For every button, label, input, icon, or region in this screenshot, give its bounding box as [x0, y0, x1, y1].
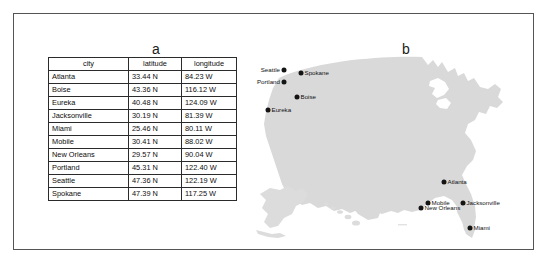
map-label-miami: Miami	[474, 225, 491, 231]
cell-city: Jacksonville	[49, 110, 128, 122]
table-row: Boise43.36 N116.12 W	[49, 84, 236, 96]
contiguous-us-shape	[264, 57, 503, 236]
panel-label-a: a	[152, 42, 160, 56]
city-coordinates-table: city latitude longitude Atlanta33.44 N84…	[48, 57, 237, 201]
map-label-seattle: Seattle	[261, 67, 280, 73]
map-label-new-orleans: New Orleans	[425, 205, 461, 211]
gulf-detail-mark	[398, 224, 407, 225]
cell-longitude: 80.11 W	[182, 123, 236, 135]
column-header-longitude: longitude	[182, 58, 236, 70]
cell-longitude: 122.19 W	[182, 175, 236, 187]
cell-longitude: 124.09 W	[182, 97, 236, 109]
table-row: Atlanta33.44 N84.23 W	[49, 71, 236, 83]
us-map-panel: SeattlePortlandSpokaneBoiseEurekaAtlanta…	[252, 48, 514, 244]
cell-longitude: 88.02 W	[182, 136, 236, 148]
map-dot-spokane	[299, 71, 304, 76]
cell-latitude: 45.31 N	[129, 162, 181, 174]
table-row: Seattle47.36 N122.19 W	[49, 175, 236, 187]
cell-city: Atlanta	[49, 71, 128, 83]
cell-latitude: 25.46 N	[129, 123, 181, 135]
cell-latitude: 30.41 N	[129, 136, 181, 148]
table-body: Atlanta33.44 N84.23 WBoise43.36 N116.12 …	[49, 71, 236, 200]
cell-longitude: 122.40 W	[182, 162, 236, 174]
alaska-shape	[260, 186, 308, 228]
table-row: New Orleans29.57 N90.04 W	[49, 149, 236, 161]
map-label-portland: Portland	[257, 79, 280, 85]
cell-latitude: 29.57 N	[129, 149, 181, 161]
map-dot-jacksonville	[461, 201, 466, 206]
column-header-latitude: latitude	[129, 58, 181, 70]
map-label-atlanta: Atlanta	[448, 179, 467, 185]
cell-city: Boise	[49, 84, 128, 96]
us-map-silhouette	[252, 48, 514, 244]
cell-longitude: 81.39 W	[182, 110, 236, 122]
aleutian-islands-shape	[256, 230, 286, 238]
table-row: Miami25.46 N80.11 W	[49, 123, 236, 135]
map-dot-eureka	[266, 108, 271, 113]
map-label-eureka: Eureka	[272, 107, 292, 113]
map-dot-atlanta	[442, 180, 447, 185]
cell-latitude: 43.36 N	[129, 84, 181, 96]
map-label-spokane: Spokane	[305, 70, 329, 76]
cell-city: Mobile	[49, 136, 128, 148]
map-dot-boise	[295, 95, 300, 100]
map-dot-miami	[468, 226, 473, 231]
table-row: Spokane47.39 N117.25 W	[49, 188, 236, 200]
cell-latitude: 40.48 N	[129, 97, 181, 109]
cell-city: New Orleans	[49, 149, 128, 161]
cell-longitude: 84.23 W	[182, 71, 236, 83]
map-dot-new-orleans	[419, 206, 424, 211]
cell-latitude: 33.44 N	[129, 71, 181, 83]
cell-city: Portland	[49, 162, 128, 174]
cell-city: Spokane	[49, 188, 128, 200]
table-row: Mobile30.41 N88.02 W	[49, 136, 236, 148]
table-row: Eureka40.48 N124.09 W	[49, 97, 236, 109]
table-row: Portland45.31 N122.40 W	[49, 162, 236, 174]
map-dot-seattle	[282, 68, 287, 73]
table-header-row: city latitude longitude	[49, 58, 236, 70]
cell-longitude: 90.04 W	[182, 149, 236, 161]
cell-latitude: 47.36 N	[129, 175, 181, 187]
cell-city: Eureka	[49, 97, 128, 109]
map-label-jacksonville: Jacksonville	[467, 200, 500, 206]
cell-latitude: 47.39 N	[129, 188, 181, 200]
table-row: Jacksonville30.19 N81.39 W	[49, 110, 236, 122]
cell-longitude: 116.12 W	[182, 84, 236, 96]
cell-city: Seattle	[49, 175, 128, 187]
cell-longitude: 117.25 W	[182, 188, 236, 200]
column-header-city: city	[49, 58, 128, 70]
cell-latitude: 30.19 N	[129, 110, 181, 122]
cell-city: Miami	[49, 123, 128, 135]
map-dot-portland	[282, 80, 287, 85]
map-label-boise: Boise	[301, 94, 316, 100]
city-coordinates-table-panel: city latitude longitude Atlanta33.44 N84…	[48, 57, 233, 201]
